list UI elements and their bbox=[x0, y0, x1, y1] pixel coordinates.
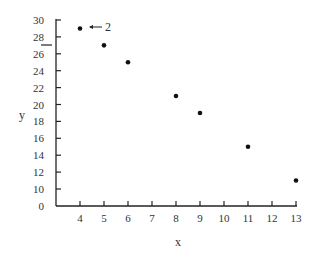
annotation-label: 2 bbox=[105, 20, 111, 34]
y-tick-label: 12 bbox=[33, 166, 44, 178]
scatter-chart: 01012141618202224262830 45678910111213 2… bbox=[0, 0, 318, 258]
x-tick-label: 12 bbox=[267, 212, 278, 224]
x-tick-label: 6 bbox=[125, 212, 131, 224]
x-tick-label: 5 bbox=[101, 212, 107, 224]
y-tick-label: 24 bbox=[33, 65, 45, 77]
y-tick-label: 20 bbox=[33, 99, 45, 111]
data-point bbox=[246, 144, 251, 149]
arrow-head-icon bbox=[89, 25, 93, 29]
y-axis-ticks: 01012141618202224262830 bbox=[33, 14, 61, 212]
y-tick-label: 26 bbox=[33, 48, 45, 60]
point-annotation: 2 bbox=[89, 20, 111, 34]
x-tick-label: 4 bbox=[77, 212, 83, 224]
y-tick-label: 22 bbox=[33, 82, 44, 94]
y-tick-label: 16 bbox=[33, 132, 45, 144]
x-axis-title: x bbox=[175, 235, 181, 249]
data-point bbox=[78, 26, 83, 31]
y-tick-label: 0 bbox=[39, 200, 45, 212]
x-tick-label: 8 bbox=[173, 212, 179, 224]
y-tick-label: 30 bbox=[33, 14, 45, 26]
y-tick-label: 28 bbox=[33, 31, 45, 43]
y-tick-label: 18 bbox=[33, 115, 45, 127]
x-tick-label: 13 bbox=[291, 212, 303, 224]
x-axis-ticks: 45678910111213 bbox=[77, 201, 302, 224]
x-tick-label: 10 bbox=[219, 212, 231, 224]
y-tick-label: 14 bbox=[33, 149, 45, 161]
x-tick-label: 7 bbox=[149, 212, 155, 224]
data-point bbox=[102, 43, 107, 48]
data-point bbox=[126, 60, 131, 65]
y-axis-title: y bbox=[19, 108, 25, 122]
data-point bbox=[294, 178, 299, 183]
data-point bbox=[174, 94, 179, 99]
x-tick-label: 9 bbox=[197, 212, 203, 224]
data-point bbox=[198, 111, 203, 116]
data-points bbox=[78, 26, 299, 183]
y-tick-label: 10 bbox=[33, 183, 45, 195]
x-tick-label: 11 bbox=[243, 212, 254, 224]
